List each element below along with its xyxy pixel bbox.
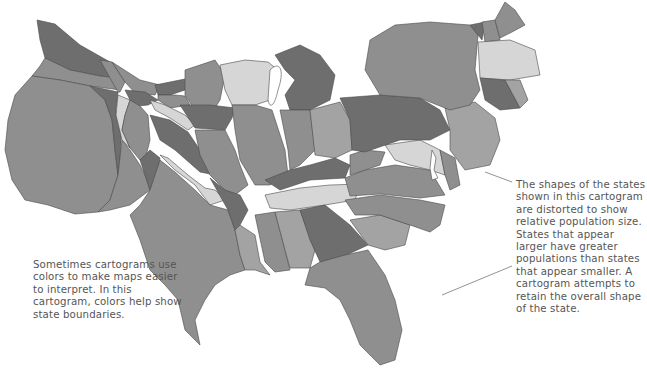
state-minnesota: [185, 60, 225, 110]
annotation-right-distortion: The shapes of the states shown in this c…: [516, 179, 647, 315]
state-michigan: [275, 45, 335, 110]
state-maine: [495, 2, 525, 38]
lake-michigan: [268, 66, 281, 105]
callout-line-upper: [485, 172, 512, 182]
state-florida: [305, 250, 402, 365]
annotation-left-colors: Sometimes cartograms use colors to make …: [33, 259, 188, 321]
state-massachusetts: [478, 40, 540, 80]
callout-line-lower: [442, 266, 512, 295]
